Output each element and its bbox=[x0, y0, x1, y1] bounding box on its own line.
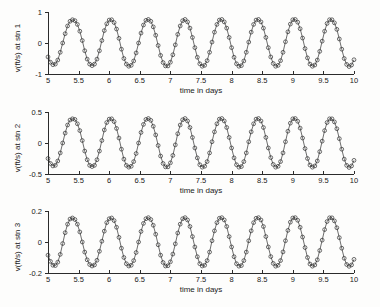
chart-panel-station-2: 55.566.577.588.599.510-0.500.5 time in d… bbox=[0, 100, 380, 202]
x-tick-label: 10 bbox=[350, 176, 358, 185]
x-tick-label: 9.5 bbox=[318, 76, 328, 85]
x-tick bbox=[354, 71, 355, 74]
x-tick bbox=[323, 270, 324, 273]
x-tick bbox=[232, 71, 233, 74]
y-axis-label-3: v(ft/s) at stn 3 bbox=[13, 202, 23, 292]
y-tick-label: -0.2 bbox=[29, 269, 42, 278]
x-tick-label: 8.5 bbox=[257, 176, 267, 185]
x-tick-label: 5 bbox=[46, 76, 50, 85]
x-tick-label: 9.5 bbox=[318, 275, 328, 284]
y-tick bbox=[45, 12, 48, 13]
y-tick bbox=[45, 43, 48, 44]
x-tick-label: 7.5 bbox=[196, 76, 206, 85]
y-axis-label-2: v(ft/s) at stn 2 bbox=[13, 103, 23, 193]
x-tick-label: 6 bbox=[107, 275, 111, 284]
x-tick bbox=[109, 171, 110, 174]
y-tick bbox=[45, 242, 48, 243]
chart-panel-station-1: 55.566.577.588.599.510-101 time in days … bbox=[0, 0, 380, 102]
x-tick bbox=[109, 270, 110, 273]
chart-panel-station-3: 55.566.577.588.599.510-0.200.2 time in d… bbox=[0, 199, 380, 301]
x-tick bbox=[293, 171, 294, 174]
x-tick-label: 6.5 bbox=[135, 275, 145, 284]
data-point-marker bbox=[352, 158, 356, 162]
x-tick-label: 9 bbox=[291, 76, 295, 85]
x-tick-label: 5.5 bbox=[73, 275, 83, 284]
y-tick-label: -1 bbox=[35, 70, 42, 79]
x-tick-label: 6 bbox=[107, 176, 111, 185]
x-tick-label: 7 bbox=[168, 176, 172, 185]
y-tick-label: 0.2 bbox=[32, 207, 42, 216]
y-tick-label: 0.5 bbox=[32, 108, 42, 117]
x-tick-label: 7.5 bbox=[196, 275, 206, 284]
x-tick-label: 5 bbox=[46, 275, 50, 284]
x-tick-label: 7 bbox=[168, 76, 172, 85]
x-tick bbox=[79, 270, 80, 273]
x-tick-label: 6 bbox=[107, 76, 111, 85]
y-tick bbox=[45, 112, 48, 113]
x-axis-label-1: time in days bbox=[48, 86, 354, 96]
x-tick bbox=[140, 171, 141, 174]
x-tick bbox=[323, 171, 324, 174]
x-tick-label: 6.5 bbox=[135, 76, 145, 85]
data-point-marker bbox=[352, 58, 356, 62]
x-tick bbox=[262, 270, 263, 273]
x-tick-label: 10 bbox=[350, 275, 358, 284]
y-tick bbox=[45, 143, 48, 144]
x-tick bbox=[201, 171, 202, 174]
x-axis-label-2: time in days bbox=[48, 186, 354, 196]
x-tick bbox=[170, 270, 171, 273]
x-tick bbox=[262, 171, 263, 174]
x-tick bbox=[79, 171, 80, 174]
y-tick-label: 0 bbox=[38, 139, 42, 148]
y-axis-label-1: v(ft/s) at stn 1 bbox=[13, 3, 23, 93]
y-tick bbox=[45, 174, 48, 175]
x-tick bbox=[140, 270, 141, 273]
x-tick bbox=[79, 71, 80, 74]
x-tick bbox=[293, 71, 294, 74]
x-tick-label: 8.5 bbox=[257, 275, 267, 284]
data-series-station-1 bbox=[48, 12, 354, 75]
x-tick-label: 7 bbox=[168, 275, 172, 284]
x-tick-label: 5.5 bbox=[73, 176, 83, 185]
y-tick-label: -0.5 bbox=[29, 170, 42, 179]
data-point-marker bbox=[352, 257, 356, 261]
x-tick bbox=[262, 71, 263, 74]
y-tick bbox=[45, 211, 48, 212]
y-tick-label: 0 bbox=[38, 238, 42, 247]
x-tick-label: 9 bbox=[291, 275, 295, 284]
x-tick-label: 9.5 bbox=[318, 176, 328, 185]
x-tick-label: 6.5 bbox=[135, 176, 145, 185]
x-tick-label: 8 bbox=[230, 176, 234, 185]
x-tick-label: 8 bbox=[230, 76, 234, 85]
x-tick bbox=[323, 71, 324, 74]
x-tick-label: 8.5 bbox=[257, 76, 267, 85]
x-tick bbox=[354, 171, 355, 174]
x-tick bbox=[48, 71, 49, 74]
x-tick bbox=[140, 71, 141, 74]
x-tick-label: 8 bbox=[230, 275, 234, 284]
x-tick-label: 5.5 bbox=[73, 76, 83, 85]
x-tick bbox=[201, 270, 202, 273]
data-series-station-3 bbox=[48, 211, 354, 274]
x-tick bbox=[170, 71, 171, 74]
x-tick bbox=[232, 171, 233, 174]
y-tick bbox=[45, 74, 48, 75]
x-axis-label-3: time in days bbox=[48, 285, 354, 295]
x-tick bbox=[354, 270, 355, 273]
x-tick-label: 7.5 bbox=[196, 176, 206, 185]
x-tick bbox=[293, 270, 294, 273]
figure-canvas: 55.566.577.588.599.510-101 time in days … bbox=[0, 0, 380, 307]
y-tick-label: 0 bbox=[38, 39, 42, 48]
y-tick bbox=[45, 273, 48, 274]
x-tick-label: 9 bbox=[291, 176, 295, 185]
x-tick-label: 10 bbox=[350, 76, 358, 85]
data-series-station-2 bbox=[48, 112, 354, 175]
x-tick bbox=[48, 270, 49, 273]
y-tick-label: 1 bbox=[38, 8, 42, 17]
x-tick bbox=[201, 71, 202, 74]
x-tick bbox=[170, 171, 171, 174]
x-tick bbox=[109, 71, 110, 74]
x-tick-label: 5 bbox=[46, 176, 50, 185]
x-tick bbox=[232, 270, 233, 273]
data-point-marker bbox=[46, 55, 50, 59]
